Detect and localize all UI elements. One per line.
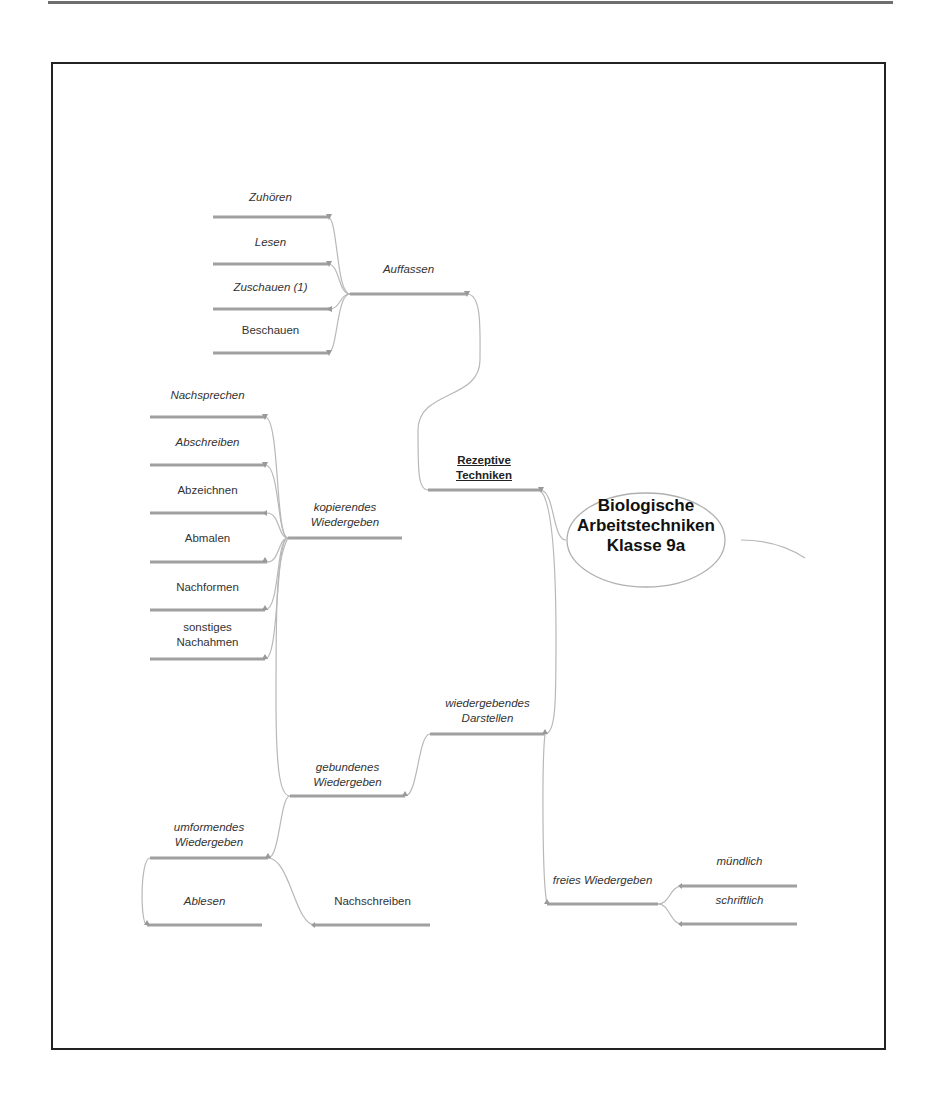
- node-sonstiges-nachahmen[interactable]: sonstiges Nachahmen: [150, 620, 265, 650]
- kopierendes-line-2: Wiedergeben: [288, 515, 402, 530]
- node-abmalen[interactable]: Abmalen: [150, 531, 265, 546]
- center-node[interactable]: Biologische Arbeitstechniken Klasse 9a: [566, 496, 726, 556]
- node-wiedergebendes-darstellen[interactable]: wiedergebendes Darstellen: [430, 696, 545, 726]
- node-umformendes-wiedergeben[interactable]: umformendes Wiedergeben: [150, 820, 268, 850]
- node-rezeptive-techniken[interactable]: Rezeptive Techniken: [428, 453, 540, 483]
- umformendes-line-1: umformendes: [150, 820, 268, 835]
- wiedergebendes-line-2: Darstellen: [430, 711, 545, 726]
- node-beschauen[interactable]: Beschauen: [213, 323, 328, 338]
- node-nachformen[interactable]: Nachformen: [150, 580, 265, 595]
- center-line-3: Klasse 9a: [566, 536, 726, 556]
- sonstiges-line-2: Nachahmen: [150, 635, 265, 650]
- node-zuhoeren[interactable]: Zuhören: [213, 190, 328, 205]
- center-line-2: Arbeitstechniken: [566, 516, 726, 536]
- mindmap-connectors: [0, 0, 936, 1113]
- rezeptive-line-1: Rezeptive: [428, 453, 540, 468]
- node-schriftlich[interactable]: schriftlich: [682, 893, 797, 908]
- node-freies-wiedergeben[interactable]: freies Wiedergeben: [540, 873, 665, 888]
- node-lesen[interactable]: Lesen: [213, 235, 328, 250]
- node-abzeichnen[interactable]: Abzeichnen: [150, 483, 265, 498]
- umformendes-line-2: Wiedergeben: [150, 835, 268, 850]
- rezeptive-line-2: Techniken: [428, 468, 540, 483]
- node-gebundenes-wiedergeben[interactable]: gebundenes Wiedergeben: [290, 760, 405, 790]
- node-nachschreiben[interactable]: Nachschreiben: [315, 894, 430, 909]
- node-nachsprechen[interactable]: Nachsprechen: [150, 388, 265, 403]
- node-abschreiben[interactable]: Abschreiben: [150, 435, 265, 450]
- center-line-1: Biologische: [566, 496, 726, 516]
- node-zuschauen[interactable]: Zuschauen (1): [213, 280, 328, 295]
- sonstiges-line-1: sonstiges: [150, 620, 265, 635]
- node-ablesen[interactable]: Ablesen: [147, 894, 262, 909]
- node-muendlich[interactable]: mündlich: [682, 854, 797, 869]
- kopierendes-line-1: kopierendes: [288, 500, 402, 515]
- node-kopierendes-wiedergeben[interactable]: kopierendes Wiedergeben: [288, 500, 402, 530]
- gebundenes-line-1: gebundenes: [290, 760, 405, 775]
- gebundenes-line-2: Wiedergeben: [290, 775, 405, 790]
- node-auffassen[interactable]: Auffassen: [350, 262, 467, 277]
- wiedergebendes-line-1: wiedergebendes: [430, 696, 545, 711]
